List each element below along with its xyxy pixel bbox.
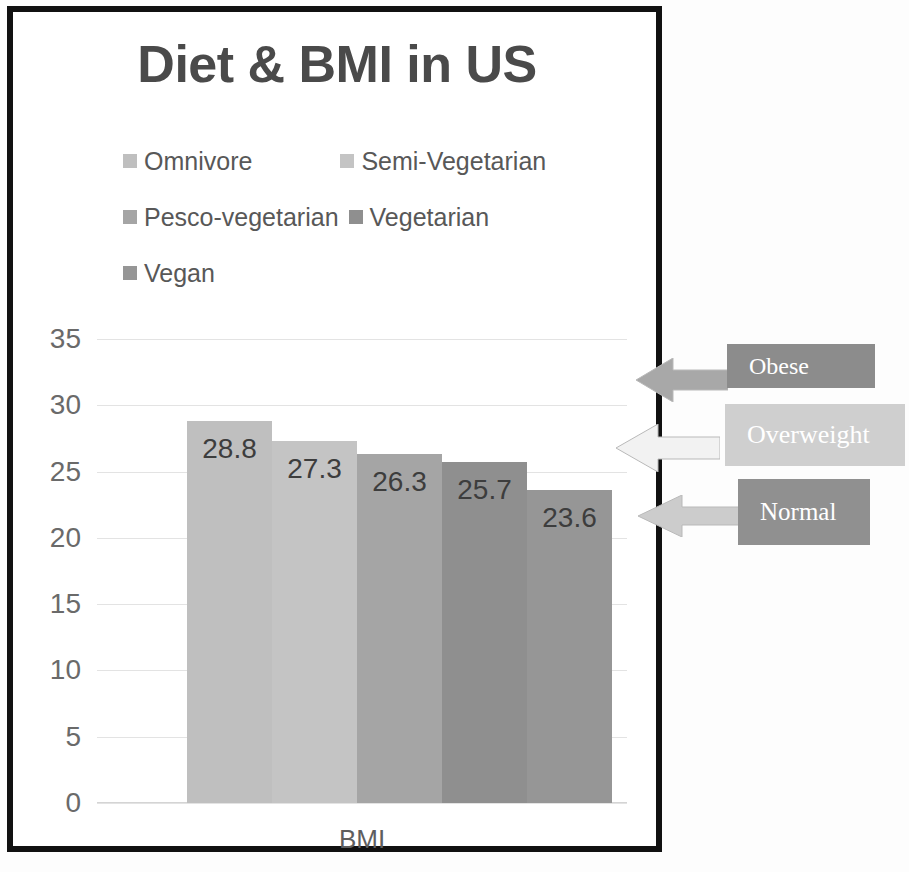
legend-row: OmnivoreSemi-Vegetarian: [123, 144, 643, 200]
annotation-label: Normal: [738, 498, 836, 526]
legend-swatch-icon: [123, 154, 137, 168]
legend-swatch-icon: [349, 210, 363, 224]
legend-item-label: Omnivore: [144, 148, 252, 174]
arrow-left-icon-obese: [636, 358, 728, 402]
legend-item-label: Semi-Vegetarian: [361, 148, 546, 174]
scanned-page: Diet & BMI in US OmnivoreSemi-Vegetarian…: [0, 0, 909, 872]
plot-area: 3530252015105028.827.326.325.723.6: [97, 339, 627, 803]
legend-item-semi-vegetarian[interactable]: Semi-Vegetarian: [340, 144, 546, 178]
legend-swatch-icon: [123, 210, 137, 224]
y-axis-tick-label: 20: [50, 522, 81, 554]
y-axis-tick-label: 30: [50, 389, 81, 421]
annotation-box-overweight[interactable]: Overweight: [725, 404, 905, 466]
annotation-label: Obese: [727, 353, 809, 380]
x-axis-label: BMI: [97, 824, 627, 855]
y-axis-tick-label: 10: [50, 654, 81, 686]
bar-pesco-vegetarian[interactable]: 26.3: [357, 454, 442, 803]
legend-item-label: Vegetarian: [370, 204, 490, 230]
bar-omnivore[interactable]: 28.8: [187, 421, 272, 803]
legend-item-label: Vegan: [144, 260, 215, 286]
legend-item-label: Pesco-vegetarian: [144, 204, 339, 230]
bar-value-label: 27.3: [272, 453, 357, 485]
annotation-box-normal[interactable]: Normal: [738, 479, 870, 545]
chart-legend: OmnivoreSemi-VegetarianPesco-vegetarianV…: [123, 144, 643, 312]
annotation-box-obese[interactable]: Obese: [727, 344, 875, 388]
bar-value-label: 23.6: [527, 502, 612, 534]
arrow-left-icon-overweight: [616, 424, 720, 472]
legend-row: Pesco-vegetarianVegetarian: [123, 200, 643, 256]
y-axis-tick-label: 5: [65, 721, 81, 753]
bar-semi-vegetarian[interactable]: 27.3: [272, 441, 357, 803]
legend-row: Vegan: [123, 256, 643, 312]
gridline: [97, 339, 627, 340]
y-axis-tick-label: 15: [50, 588, 81, 620]
legend-item-omnivore[interactable]: Omnivore: [123, 144, 252, 178]
y-axis-tick-label: 25: [50, 456, 81, 488]
annotation-label: Overweight: [725, 420, 870, 450]
y-axis-tick-label: 35: [50, 323, 81, 355]
legend-swatch-icon: [123, 266, 137, 280]
y-axis-tick-label: 0: [65, 787, 81, 819]
bar-value-label: 25.7: [442, 474, 527, 506]
legend-item-vegan[interactable]: Vegan: [123, 256, 215, 290]
gridline: [97, 405, 627, 406]
legend-item-vegetarian[interactable]: Vegetarian: [349, 200, 490, 234]
legend-item-pesco-vegetarian[interactable]: Pesco-vegetarian: [123, 200, 339, 234]
arrow-left-icon-normal: [638, 495, 748, 537]
bar-vegetarian[interactable]: 25.7: [442, 462, 527, 803]
page-title: Diet & BMI in US: [13, 34, 661, 94]
bar-value-label: 28.8: [187, 433, 272, 465]
gridline: [97, 803, 627, 804]
bar-vegan[interactable]: 23.6: [527, 490, 612, 803]
chart-frame: Diet & BMI in US OmnivoreSemi-Vegetarian…: [7, 6, 662, 852]
bar-value-label: 26.3: [357, 466, 442, 498]
legend-swatch-icon: [340, 154, 354, 168]
